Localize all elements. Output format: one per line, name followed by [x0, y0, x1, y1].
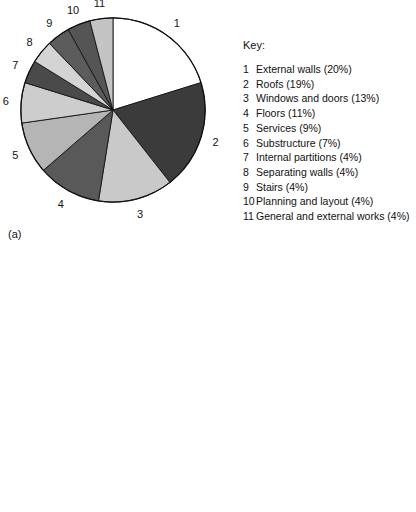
- legend-item-number: 10: [243, 195, 256, 208]
- legend-item-number: 11: [243, 210, 256, 223]
- legend-item: 1External walls (20%): [243, 63, 416, 76]
- legend-item-number: 3: [243, 92, 256, 105]
- figure-page: 1234567891011 (a) Key: 1External walls (…: [0, 0, 416, 512]
- legend-item-number: 9: [243, 181, 256, 194]
- pie-slice-number: 11: [94, 0, 105, 9]
- legend-item: 7Internal partitions (4%): [243, 151, 416, 164]
- pie-chart-a-svg: [17, 14, 209, 206]
- legend-item: 6Substructure (7%): [243, 137, 416, 150]
- legend-a: Key: 1External walls (20%)2Roofs (19%)3W…: [243, 39, 416, 225]
- legend-item: 10Planning and layout (4%): [243, 195, 416, 208]
- pie-slice-number: 3: [137, 209, 143, 220]
- pie-chart-a: [17, 14, 209, 206]
- legend-item: 11General and external works (4%): [243, 210, 416, 223]
- pie-slice-number: 1: [174, 18, 180, 29]
- legend-item-label: Stairs (4%): [256, 181, 416, 194]
- panel-a-tag: (a): [8, 228, 21, 240]
- legend-item: 8Separating walls (4%): [243, 166, 416, 179]
- legend-item: 3Windows and doors (13%): [243, 92, 416, 105]
- pie-slice-number: 10: [67, 5, 79, 16]
- pie-slice-number: 5: [12, 149, 18, 160]
- legend-a-list: 1External walls (20%)2Roofs (19%)3Window…: [243, 63, 416, 223]
- legend-item-label: Windows and doors (13%): [256, 92, 416, 105]
- legend-item: 9Stairs (4%): [243, 181, 416, 194]
- legend-item-number: 1: [243, 63, 256, 76]
- legend-item-label: Separating walls (4%): [256, 166, 416, 179]
- legend-item-label: Internal partitions (4%): [256, 151, 416, 164]
- legend-item-label: External walls (20%): [256, 63, 416, 76]
- legend-item-label: Services (9%): [256, 122, 416, 135]
- legend-item-number: 7: [243, 151, 256, 164]
- panel-a: 1234567891011 (a) Key: 1External walls (…: [0, 0, 416, 250]
- legend-item-label: Floors (11%): [256, 107, 416, 120]
- legend-item-number: 5: [243, 122, 256, 135]
- legend-item-number: 2: [243, 78, 256, 91]
- legend-item: 4Floors (11%): [243, 107, 416, 120]
- pie-slice-number: 9: [46, 18, 52, 29]
- legend-item-label: Planning and layout (4%): [256, 195, 416, 208]
- pie-slice-number: 8: [26, 37, 32, 48]
- legend-item-number: 4: [243, 107, 256, 120]
- legend-item-number: 8: [243, 166, 256, 179]
- legend-item-number: 6: [243, 137, 256, 150]
- legend-item: 5Services (9%): [243, 122, 416, 135]
- legend-item-label: Substructure (7%): [256, 137, 416, 150]
- pie-slice-number: 4: [58, 198, 64, 209]
- legend-item-label: General and external works (4%): [256, 210, 416, 223]
- legend-item: 2Roofs (19%): [243, 78, 416, 91]
- legend-item-label: Roofs (19%): [256, 78, 416, 91]
- legend-a-title: Key:: [243, 39, 416, 51]
- pie-slice-number: 7: [12, 60, 18, 71]
- panel-b: 1234567891011121314 (b) Key: 1Durability…: [0, 250, 416, 512]
- pie-slice-number: 6: [3, 96, 9, 107]
- pie-slice-number: 2: [213, 136, 219, 147]
